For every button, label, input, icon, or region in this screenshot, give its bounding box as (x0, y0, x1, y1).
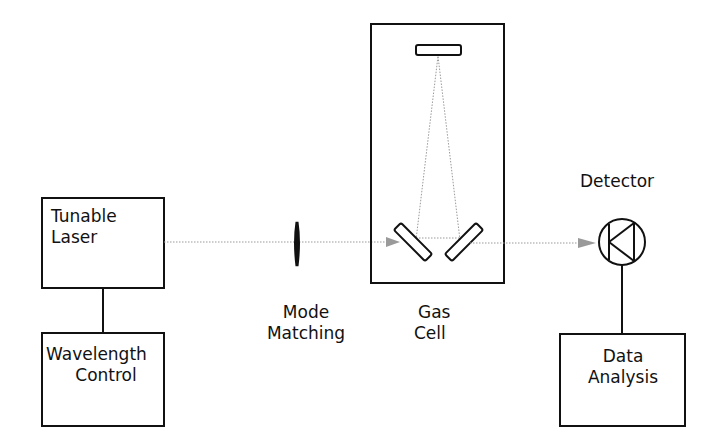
gas-cell-line1: Gas (414, 302, 450, 323)
detector-label: Detector (580, 171, 654, 192)
data-analysis-line2: Analysis (562, 367, 684, 388)
wavelength-control-line1: Wavelength (46, 344, 166, 365)
tunable-laser-line2: Laser (51, 227, 117, 248)
right-angled-mirror-icon (445, 223, 483, 261)
data-analysis-label: Data Analysis (562, 346, 684, 388)
wavelength-control-line2: Control (46, 365, 166, 386)
mode-matching-line1: Mode (256, 302, 356, 323)
mode-matching-label: Mode Matching (256, 302, 356, 344)
data-analysis-line1: Data (562, 346, 684, 367)
mode-matching-line2: Matching (256, 323, 356, 344)
gas-cell-line2: Cell (414, 323, 450, 344)
beam-arrow-in-icon (386, 237, 400, 247)
detector-photodiode-icon (599, 219, 645, 265)
gas-cell-label: Gas Cell (414, 302, 450, 344)
internal-beam-path (416, 56, 460, 240)
beam-arrow-detector-icon (578, 238, 596, 248)
wavelength-control-label: Wavelength Control (46, 344, 166, 386)
tunable-laser-line1: Tunable (51, 206, 117, 227)
top-mirror-icon (416, 45, 461, 55)
mode-matching-lens-icon (296, 222, 299, 266)
tunable-laser-label: Tunable Laser (51, 206, 117, 248)
